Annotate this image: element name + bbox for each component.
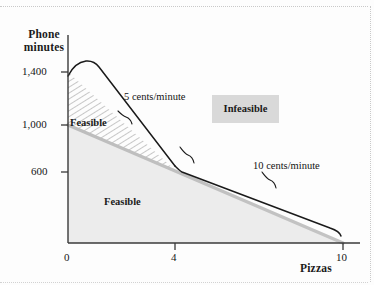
brace-10-cents-pointer — [262, 172, 276, 188]
x-tick-label-0: 0 — [64, 251, 70, 263]
brace-10-cents — [180, 147, 194, 163]
y-axis-title-line2: minutes — [16, 41, 72, 54]
x-tick-label-4: 4 — [171, 251, 177, 263]
y-axis-title-line1: Phone — [16, 28, 72, 41]
feasible-label-lower: Feasible — [104, 196, 141, 207]
y-axis-title: Phone minutes — [16, 28, 72, 54]
annotation-rate-upper: 5 cents/minute — [124, 91, 186, 102]
y-tick-label-600: 600 — [31, 165, 48, 177]
infeasible-label: Infeasible — [212, 103, 279, 114]
annotation-rate-lower: 10 cents/minute — [253, 160, 320, 171]
y-tick-label-1400: 1,400 — [22, 65, 47, 77]
feasible-label-upper: Feasible — [70, 117, 107, 128]
chart-figure: Phone minutes Pizzas 1,400 1,000 600 0 4… — [0, 0, 374, 285]
x-tick-label-10: 10 — [336, 251, 347, 263]
y-tick-label-1000: 1,000 — [22, 118, 47, 130]
x-axis-title: Pizzas — [300, 262, 332, 275]
